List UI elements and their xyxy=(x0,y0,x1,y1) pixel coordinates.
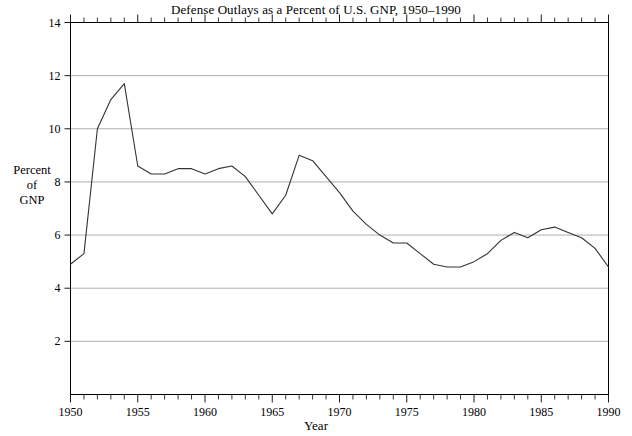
y-tick-label-8: 8 xyxy=(35,176,61,188)
x-tick-label-1950: 1950 xyxy=(48,406,94,418)
chart-container: Defense Outlays as a Percent of U.S. GNP… xyxy=(0,0,632,436)
data-line-defense-outlays xyxy=(71,84,609,267)
x-tick-label-1970: 1970 xyxy=(317,406,363,418)
x-axis-minor-ticks xyxy=(84,18,595,400)
y-tick-label-6: 6 xyxy=(35,229,61,241)
x-tick-label-1955: 1955 xyxy=(115,406,161,418)
x-tick-label-1975: 1975 xyxy=(384,406,430,418)
y-tick-label-4: 4 xyxy=(35,282,61,294)
plot-area xyxy=(0,0,632,436)
x-tick-label-1960: 1960 xyxy=(182,406,228,418)
x-axis-title: Year xyxy=(0,418,632,434)
gridlines xyxy=(71,76,609,342)
y-tick-label-14: 14 xyxy=(35,17,61,29)
y-tick-label-2: 2 xyxy=(35,335,61,347)
x-tick-label-1965: 1965 xyxy=(249,406,295,418)
y-tick-label-12: 12 xyxy=(35,70,61,82)
x-axis-major-ticks xyxy=(71,15,609,403)
y-tick-label-10: 10 xyxy=(35,123,61,135)
x-tick-label-1985: 1985 xyxy=(518,406,564,418)
x-tick-label-1990: 1990 xyxy=(586,406,632,418)
y-axis-ticks xyxy=(65,23,71,342)
plot-frame xyxy=(71,23,609,395)
x-tick-label-1980: 1980 xyxy=(451,406,497,418)
